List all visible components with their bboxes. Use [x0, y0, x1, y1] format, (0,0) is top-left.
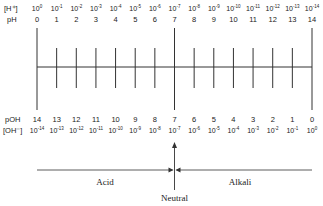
- ph-value: 9: [212, 15, 216, 24]
- ph-value: 2: [74, 15, 78, 24]
- oh-concentration-value: 10-9: [129, 126, 141, 134]
- oh-concentration-value: 10-7: [169, 126, 181, 134]
- oh-concentration-label: [OH⁻]: [3, 126, 22, 135]
- h-concentration-label: [H⁺]: [4, 4, 18, 13]
- ph-value: 13: [288, 15, 296, 24]
- oh-concentration-value: 10-10: [108, 126, 123, 134]
- h-concentration-value: 10-13: [285, 4, 300, 12]
- ph-value: 1: [55, 15, 59, 24]
- neutral-label: Neutral: [161, 193, 188, 203]
- h-concentration-value: 10-2: [70, 4, 82, 12]
- h-concentration-value: 100: [32, 4, 43, 12]
- h-concentration-value: 10-14: [305, 4, 320, 12]
- poh-value: 11: [92, 115, 100, 124]
- ph-scale-diagram: [H⁺]pHpOH[OH⁻]10001410-1410-111310-1310-…: [0, 0, 323, 206]
- oh-concentration-value: 10-8: [149, 126, 161, 134]
- oh-concentration-value: 10-13: [49, 126, 64, 134]
- ph-value: 11: [249, 15, 257, 24]
- ph-value: 10: [229, 15, 237, 24]
- h-concentration-value: 10-7: [169, 4, 181, 12]
- oh-concentration-value: 10-1: [286, 126, 298, 134]
- oh-concentration-value: 10-11: [89, 126, 103, 134]
- h-concentration-value: 10-8: [188, 4, 200, 12]
- ph-value: 3: [94, 15, 98, 24]
- ph-scale-svg: [H⁺]pHpOH[OH⁻]10001410-1410-111310-1310-…: [0, 0, 323, 206]
- poh-label: pOH: [5, 115, 20, 124]
- h-concentration-value: 10-9: [208, 4, 220, 12]
- alkali-label: Alkali: [229, 177, 252, 187]
- ph-value: 7: [172, 15, 176, 24]
- h-concentration-value: 10-4: [110, 4, 122, 12]
- poh-value: 0: [310, 115, 314, 124]
- poh-value: 10: [111, 115, 119, 124]
- h-concentration-value: 10-3: [90, 4, 102, 12]
- arrow-right-icon: [169, 168, 174, 173]
- oh-concentration-value: 10-12: [69, 126, 84, 134]
- ph-value: 12: [269, 15, 277, 24]
- oh-concentration-value: 100: [307, 126, 318, 134]
- poh-value: 13: [52, 115, 60, 124]
- ph-value: 14: [308, 15, 316, 24]
- oh-concentration-value: 10-2: [267, 126, 279, 134]
- ph-axis: [37, 28, 312, 110]
- oh-concentration-value: 10-5: [208, 126, 220, 134]
- h-concentration-value: 10-10: [226, 4, 241, 12]
- poh-value: 8: [153, 115, 157, 124]
- poh-value: 5: [212, 115, 216, 124]
- poh-value: 9: [133, 115, 137, 124]
- ph-label: pH: [7, 15, 17, 24]
- poh-value: 1: [290, 115, 294, 124]
- poh-value: 7: [172, 115, 176, 124]
- ph-value: 4: [113, 15, 117, 24]
- acid-alkali-indicator: AcidAlkaliNeutral: [37, 142, 312, 203]
- poh-value: 4: [231, 115, 235, 124]
- arrow-left-icon: [176, 168, 181, 173]
- ph-value: 6: [153, 15, 157, 24]
- arrow-up-icon: [172, 142, 177, 148]
- ph-value: 0: [35, 15, 39, 24]
- h-concentration-value: 10-11: [246, 4, 260, 12]
- oh-concentration-value: 10-4: [228, 126, 240, 134]
- poh-value: 14: [33, 115, 41, 124]
- h-concentration-value: 10-5: [129, 4, 141, 12]
- oh-concentration-value: 10-6: [188, 126, 200, 134]
- poh-value: 3: [251, 115, 255, 124]
- h-concentration-value: 10-1: [51, 4, 63, 12]
- ph-value: 8: [192, 15, 196, 24]
- poh-value: 2: [271, 115, 275, 124]
- poh-value: 12: [72, 115, 80, 124]
- h-concentration-value: 10-6: [149, 4, 161, 12]
- poh-value: 6: [192, 115, 196, 124]
- ph-value: 5: [133, 15, 137, 24]
- oh-concentration-value: 10-14: [30, 126, 45, 134]
- acid-label: Acid: [96, 177, 114, 187]
- oh-concentration-value: 10-3: [247, 126, 259, 134]
- h-concentration-value: 10-12: [266, 4, 281, 12]
